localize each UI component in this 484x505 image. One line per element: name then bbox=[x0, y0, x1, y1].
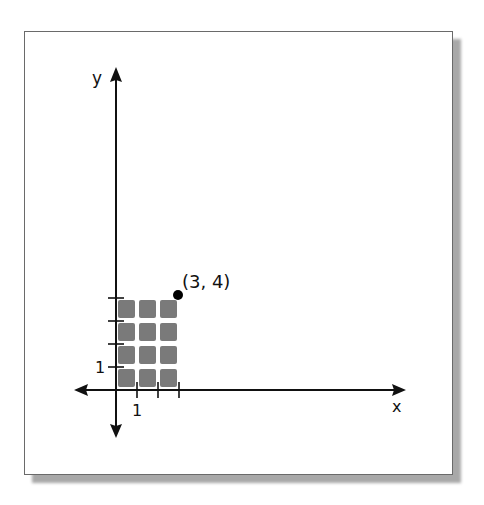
unit-square bbox=[118, 323, 135, 341]
unit-square bbox=[160, 346, 177, 364]
x-axis-label: x bbox=[392, 397, 401, 416]
unit-square bbox=[160, 300, 177, 318]
x-tick-label: 1 bbox=[132, 401, 142, 420]
coordinate-plane: y x 1 1 (3, 4) bbox=[0, 0, 484, 505]
unit-square bbox=[139, 369, 156, 387]
unit-square bbox=[139, 346, 156, 364]
point-label: (3, 4) bbox=[182, 271, 230, 292]
unit-square bbox=[139, 323, 156, 341]
unit-square bbox=[118, 300, 135, 318]
unit-square bbox=[160, 323, 177, 341]
y-tick-label: 1 bbox=[95, 358, 105, 377]
unit-square bbox=[160, 369, 177, 387]
unit-square bbox=[118, 369, 135, 387]
unit-square bbox=[139, 300, 156, 318]
unit-square-grid bbox=[118, 300, 177, 387]
y-axis-label: y bbox=[92, 68, 102, 88]
unit-square bbox=[118, 346, 135, 364]
